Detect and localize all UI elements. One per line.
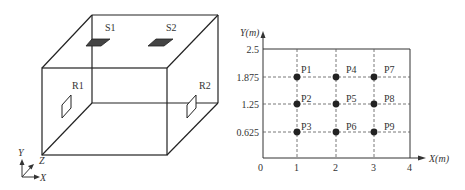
point-p4: [333, 74, 340, 81]
axis-x-label: X: [39, 172, 47, 183]
point-p8: [371, 101, 378, 108]
point-p5: [333, 101, 340, 108]
axis-y-label: Y: [18, 147, 25, 158]
y-axis-title-text: Y(m): [240, 27, 260, 39]
x-axis-arrow-icon: [418, 156, 426, 161]
grid-plot: [261, 31, 427, 161]
source-s2-label: S2: [166, 22, 177, 33]
receiver-r1-label: R1: [72, 80, 84, 91]
y-axis-title: Y(m): [240, 27, 260, 39]
y-axis-arrow-icon: [261, 31, 266, 38]
point-p8-label: P8: [384, 93, 395, 104]
point-p6-label: P6: [346, 121, 357, 132]
x-axis-title: X(m): [428, 153, 450, 165]
point-p2: [294, 101, 301, 108]
point-p1: [294, 74, 301, 81]
x-tick-0: 0: [258, 162, 263, 173]
point-p4-label: P4: [346, 64, 357, 75]
receiver-r1: R1: [62, 80, 84, 118]
axis-z-label: Z: [39, 155, 45, 166]
y-tick-2.5: 2.5: [247, 44, 260, 55]
y-tick-1.25: 1.25: [242, 99, 260, 110]
receiver-r2-label: R2: [199, 80, 211, 91]
point-p7-label: P7: [384, 64, 395, 75]
receiver-r2: R2: [187, 80, 211, 118]
point-p3: [294, 129, 301, 136]
point-p7: [371, 74, 378, 81]
point-p9: [371, 129, 378, 136]
x-tick-4: 4: [407, 162, 412, 173]
x-tick-3: 3: [371, 162, 376, 173]
x-tick-2: 2: [333, 162, 338, 173]
room-box: [42, 15, 218, 155]
source-s1-label: S1: [105, 22, 116, 33]
point-p6: [333, 129, 340, 136]
figure-canvas: S1 S2 R1 R2 Y X Z: [0, 0, 465, 190]
y-tick-1.875: 1.875: [237, 72, 260, 83]
x-axis-title-text: X(m): [428, 153, 450, 165]
point-p9-label: P9: [384, 121, 395, 132]
point-p5-label: P5: [346, 93, 357, 104]
point-p1-label: P1: [301, 64, 312, 75]
point-p3-label: P3: [301, 121, 312, 132]
source-s1: S1: [86, 22, 116, 46]
y-tick-0.625: 0.625: [237, 127, 260, 138]
x-tick-1: 1: [294, 162, 299, 173]
axis-triad: [20, 159, 41, 180]
point-p2-label: P2: [301, 93, 312, 104]
source-s2: S2: [148, 22, 177, 46]
